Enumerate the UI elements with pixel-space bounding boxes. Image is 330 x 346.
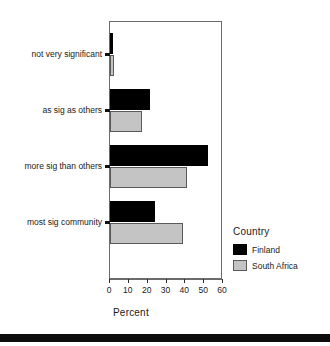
y-axis-label: more sig than others bbox=[25, 161, 102, 171]
x-axis-tick-label: 50 bbox=[193, 285, 213, 295]
legend-item-south-africa[interactable]: South Africa bbox=[233, 260, 328, 271]
gray-swatch-icon bbox=[233, 260, 247, 271]
legend-title: Country bbox=[233, 226, 328, 237]
y-axis-label: most sig community bbox=[27, 217, 102, 227]
legend-item-finland[interactable]: Finland bbox=[233, 244, 328, 255]
black-swatch-icon bbox=[233, 244, 247, 255]
bar-south-africa[interactable] bbox=[110, 223, 183, 244]
bar-south-africa[interactable] bbox=[110, 111, 142, 132]
scan-artifact-bar bbox=[0, 334, 330, 342]
x-axis-tick-label: 60 bbox=[212, 285, 232, 295]
y-axis-tick bbox=[105, 165, 110, 168]
x-axis-tick bbox=[203, 279, 204, 283]
y-axis-label: as sig as others bbox=[42, 105, 102, 115]
legend: Country Finland South Africa bbox=[233, 226, 328, 276]
x-axis-tick-label: 10 bbox=[118, 285, 138, 295]
bar-south-africa[interactable] bbox=[110, 55, 114, 76]
y-axis-tick bbox=[105, 53, 110, 56]
x-axis-tick-label: 20 bbox=[137, 285, 157, 295]
x-axis-tick-label: 0 bbox=[99, 285, 119, 295]
x-axis-tick bbox=[184, 279, 185, 283]
bar-finland[interactable] bbox=[110, 201, 155, 222]
x-axis-tick bbox=[222, 279, 223, 283]
bar-south-africa[interactable] bbox=[110, 167, 187, 188]
x-axis-tick bbox=[128, 279, 129, 283]
y-axis-tick bbox=[105, 109, 110, 112]
y-axis-label: not very significant bbox=[32, 49, 102, 59]
x-axis-title: Percent bbox=[113, 307, 149, 318]
bar-finland[interactable] bbox=[110, 33, 113, 54]
x-axis-tick-label: 40 bbox=[174, 285, 194, 295]
x-axis-tick bbox=[109, 279, 110, 283]
y-axis-tick bbox=[105, 221, 110, 224]
x-axis-tick bbox=[147, 279, 148, 283]
legend-label-south-africa: South Africa bbox=[252, 261, 298, 271]
x-axis-tick bbox=[166, 279, 167, 283]
bar-finland[interactable] bbox=[110, 89, 150, 110]
x-axis-tick-label: 30 bbox=[156, 285, 176, 295]
bar-chart: not very significantas sig as othersmore… bbox=[0, 0, 330, 346]
legend-label-finland: Finland bbox=[252, 245, 280, 255]
bar-finland[interactable] bbox=[110, 145, 208, 166]
